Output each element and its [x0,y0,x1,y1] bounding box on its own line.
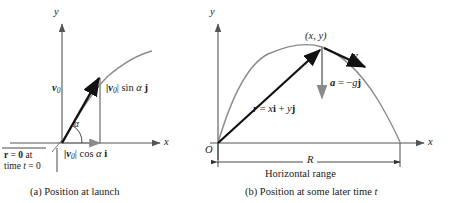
panel-a-vertical-component-label: |v0| sin α j [106,82,148,96]
panel-b-caption-text: (b) Position at some later time [245,186,374,197]
panel-b-apex-point-label: (x, y) [305,30,327,42]
panel-a-origin-note-line2: time t = 0 [4,161,41,172]
panel-a-origin-note-line1: r = 0 at [4,150,32,161]
panel-b-acceleration-label: a = −gj [330,77,361,89]
panel-a-horizontal-component-label: |v0| cos α i [64,148,107,162]
panel-b-range-label: R [303,154,317,166]
panel-a-angle-label: α [74,119,79,130]
panel-a-vert-trig: sin [119,82,137,93]
panel-b-accel-eq: = − [335,77,352,88]
panel-b-y-axis-label: y [210,6,215,18]
figure-vector-graphics [0,0,451,203]
panel-b-position-vector-label: r = xi + yj [253,103,295,115]
panel-a-v0-subscript: 0 [57,86,61,95]
panel-a-note-time: time [4,161,23,171]
panel-a-v0-label: v0 [52,82,60,96]
panel-a-horiz-unit: i [102,148,108,159]
panel-a-note-at: at [23,150,32,160]
panel-b-range-caption: Horizontal range [265,168,336,180]
panel-a-x-axis-label: x [164,136,169,148]
panel-a-y-axis-label: y [54,6,59,18]
panel-b-origin-label: O [205,144,213,156]
panel-b-x-axis-label: x [428,136,433,148]
panel-b-graphics [210,24,424,167]
panel-b-pos-plus: + [276,103,287,114]
panel-a-horiz-trig: cos [77,148,96,159]
panel-a-vert-mag-open: |v [106,82,113,93]
panel-a-horiz-mag-open: |v [64,148,71,159]
panel-b-caption-t: t [374,186,377,197]
panel-b-accel-j: j [358,77,362,88]
panel-b-pos-eq: = [257,103,268,114]
projectile-motion-figure: y x v0 α |v0| sin α j |v0| cos α i r = 0… [0,0,451,203]
panel-b-velocity-vector [324,48,365,67]
panel-b-caption: (b) Position at some later time t [245,186,377,198]
panel-a-caption: (a) Position at launch [30,186,120,198]
panel-a-v0-vector [62,78,99,143]
panel-b-position-vector [218,50,320,143]
panel-a-note-teq: = 0 [26,161,41,171]
panel-b-pos-j: j [292,103,296,114]
panel-a-vert-unit: j [142,82,148,93]
panel-a-note-eq: = [8,150,18,160]
panel-b-velocity-label: v [353,50,358,62]
